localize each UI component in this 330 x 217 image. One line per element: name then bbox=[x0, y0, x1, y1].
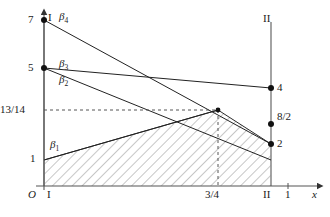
y-label-1: 1 bbox=[30, 153, 36, 164]
x-tick-label-3-4: 3/4 bbox=[205, 189, 219, 200]
curve-beta3 bbox=[44, 68, 271, 88]
beta4-sub: 4 bbox=[64, 16, 68, 25]
marker-8-2 bbox=[268, 121, 274, 127]
beta2-sub: 2 bbox=[64, 79, 68, 88]
y-label-7: 7 bbox=[28, 14, 34, 25]
beta3-sub: 3 bbox=[64, 63, 68, 72]
point-label-8-2: 8/2 bbox=[277, 111, 291, 122]
curve-label-beta4: β4 bbox=[59, 11, 68, 25]
figure-canvas: 7 5 1 13/14 4 8/2 2 I I II II O 3/4 1 x … bbox=[0, 0, 330, 217]
marker-4 bbox=[268, 85, 274, 91]
curve-label-beta3: β3 bbox=[59, 58, 68, 72]
origin-label: O bbox=[28, 189, 36, 200]
beta1-sub: 1 bbox=[55, 144, 59, 153]
marker-5 bbox=[41, 65, 47, 71]
y-label-13-14: 13/14 bbox=[0, 104, 25, 115]
region-marker-I-top: I bbox=[48, 12, 52, 23]
curve-label-beta1: β1 bbox=[50, 139, 59, 153]
marker-7 bbox=[41, 17, 47, 23]
marker-intersection bbox=[216, 108, 221, 113]
region-marker-II-bottom: II bbox=[263, 189, 270, 200]
curve-label-beta2: β2 bbox=[59, 74, 68, 88]
marker-2 bbox=[268, 141, 274, 147]
region-marker-II-top: II bbox=[263, 13, 270, 24]
region-marker-I-bottom: I bbox=[47, 189, 51, 200]
x-axis-label: x bbox=[312, 189, 317, 200]
x-tick-label-1: 1 bbox=[285, 189, 291, 200]
y-label-5: 5 bbox=[28, 62, 34, 73]
hatched-region bbox=[44, 110, 271, 186]
diagram-svg bbox=[0, 0, 330, 217]
point-label-4: 4 bbox=[277, 82, 283, 93]
point-label-2: 2 bbox=[277, 138, 283, 149]
